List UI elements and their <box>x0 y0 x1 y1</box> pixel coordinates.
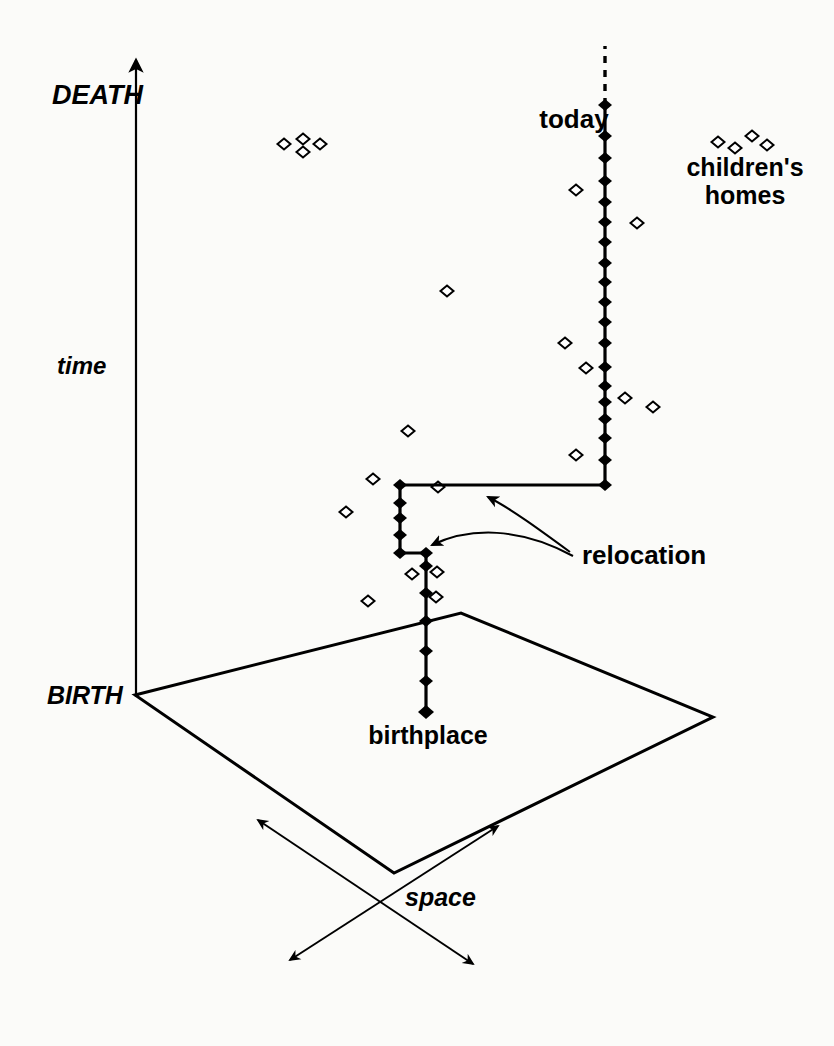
lifeline-tick <box>598 361 612 373</box>
scatter-dot <box>367 474 380 485</box>
scatter-dot <box>441 286 454 297</box>
lifeline-tick <box>393 547 407 559</box>
lifeline-tick <box>393 529 407 541</box>
scatter-dot <box>432 482 445 493</box>
scatter-dot <box>729 143 742 154</box>
scatter-dot <box>712 137 725 148</box>
relocation-callout-arrows <box>432 497 573 556</box>
lifeline-tick <box>598 257 612 269</box>
relocation-arrow-upper <box>488 497 570 552</box>
relocation-arrow-lower <box>432 533 573 556</box>
scatter-dot <box>746 131 759 142</box>
lifeline-tick <box>598 175 612 187</box>
label-space: space <box>405 883 476 911</box>
scatter-dot <box>278 139 291 150</box>
lifeline-tick <box>598 396 612 408</box>
lifeline-tick <box>419 560 433 572</box>
lifeline-tick <box>598 296 612 308</box>
lifeline-tick <box>598 380 612 392</box>
scatter-dot <box>761 140 774 151</box>
scatter-dot <box>647 402 660 413</box>
lifeline-path <box>393 46 612 719</box>
lifeline-tick <box>598 276 612 288</box>
scatter-dot <box>580 363 593 374</box>
scatter-dot <box>340 507 353 518</box>
lifeline-tick <box>418 705 434 719</box>
lifeline-ticks-middle <box>393 479 407 559</box>
label-death: DEATH <box>52 80 143 110</box>
scatter-dot <box>570 185 583 196</box>
label-birthplace: birthplace <box>368 721 488 749</box>
figure-root: DEATH time BIRTH today children's homes … <box>0 0 834 1046</box>
label-today: today <box>539 104 609 134</box>
scatter-dot <box>619 393 632 404</box>
lifeline-tick <box>598 479 612 491</box>
lifeline-tick <box>419 645 433 657</box>
time-geography-diagram: DEATH time BIRTH today children's homes … <box>0 0 834 1046</box>
scatter-dot <box>559 338 572 349</box>
scatter-dot <box>631 218 644 229</box>
label-childrens-homes-line1: children's <box>686 153 803 181</box>
scatter-dot <box>297 147 310 158</box>
lifeline-tick <box>598 337 612 349</box>
scatter-dot <box>362 596 375 607</box>
lifeline-tick <box>598 454 612 466</box>
lifeline-tick <box>393 479 407 491</box>
scatter-dot <box>297 134 310 145</box>
scatter-dot <box>570 450 583 461</box>
lifeline-tick <box>598 316 612 328</box>
lifeline-tick <box>393 497 407 509</box>
scatter-dot <box>431 567 444 578</box>
lifeline-tick <box>419 547 433 559</box>
scatter-dots <box>278 131 774 607</box>
lifeline-tick <box>598 152 612 164</box>
label-time: time <box>57 352 106 379</box>
scatter-dot <box>314 139 327 150</box>
lifeline-tick <box>598 413 612 425</box>
label-birth: BIRTH <box>47 681 124 709</box>
lifeline-tick <box>598 236 612 248</box>
label-relocation: relocation <box>582 540 706 570</box>
lifeline-tick <box>598 216 612 228</box>
lifeline-tick <box>419 615 433 627</box>
lifeline-tick <box>419 675 433 687</box>
lifeline-tick <box>598 196 612 208</box>
scatter-dot <box>402 426 415 437</box>
label-childrens-homes-line2: homes <box>705 181 786 209</box>
lifeline-tick <box>598 432 612 444</box>
lifeline-tick <box>393 512 407 524</box>
scatter-dot <box>406 569 419 580</box>
